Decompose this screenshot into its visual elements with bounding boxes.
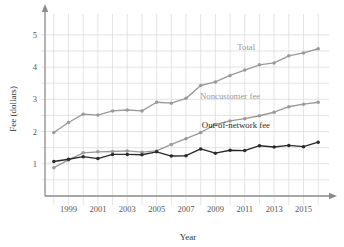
series-point [52,131,56,135]
series-point [81,155,85,159]
series-point [126,153,130,157]
series-point [272,61,276,65]
chart-container: 1234519992001200320052007200920112013201… [0,0,344,247]
series-point [243,149,247,153]
series-point [67,158,71,162]
series-point [258,63,262,67]
y-tick-label: 3 [33,94,37,104]
series-point [272,145,276,149]
series-annotation: Noncustomer fee [200,91,260,101]
series-point [214,80,218,84]
x-axis-title: Year [180,232,197,242]
x-tick-label: 2015 [295,204,312,214]
y-tick-label: 2 [33,127,37,137]
series-point [52,166,56,170]
y-tick-label: 4 [33,62,38,72]
x-tick-label: 2001 [89,204,106,214]
series-point [111,109,115,113]
series-point [199,84,203,88]
x-tick-label: 2013 [266,204,283,214]
series-point [81,151,85,155]
series-point [302,145,306,149]
x-tick-label: 2005 [148,204,165,214]
series-point [155,150,159,154]
series-point [287,105,291,109]
y-axis-title: Fee (dollars) [8,86,18,132]
series-point [140,109,144,113]
series-point [170,143,174,147]
x-tick-label: 2009 [207,204,224,214]
series-point [287,144,291,148]
series-point [96,113,100,117]
series-point [184,97,188,101]
series-point [272,110,276,114]
series-point [170,154,174,158]
series-point [302,102,306,106]
x-tick-label: 2011 [236,204,253,214]
series-point [258,144,262,148]
series-point [170,101,174,105]
y-tick-label: 1 [33,159,37,169]
series-point [111,153,115,157]
x-tick-label: 1999 [60,204,77,214]
series-point [184,154,188,158]
series-point [214,151,218,155]
series-point [287,54,291,58]
series-point [258,114,262,118]
series-point [67,121,71,125]
series-annotation: Out-of-network fee [202,120,270,130]
series-annotation: Total [237,42,256,52]
series-point [52,160,56,164]
series-point [316,100,320,104]
x-tick-label: 2003 [119,204,136,214]
series-point [316,140,320,144]
x-tick-label: 2007 [178,204,195,214]
series-point [155,100,159,104]
x-axis-arrow [329,193,337,199]
series-point [228,74,232,78]
y-axis-arrow [42,4,48,12]
y-tick-label: 5 [33,30,37,40]
series-point [126,149,130,153]
series-point [243,68,247,72]
series-point [140,153,144,157]
series-point [316,47,320,51]
series-point [184,137,188,141]
series-point [81,112,85,116]
line-chart: 1234519992001200320052007200920112013201… [0,0,344,247]
series-point [302,51,306,55]
series-point [199,131,203,135]
series-point [228,148,232,152]
series-point [96,157,100,161]
series-point [96,150,100,154]
series-point [126,108,130,112]
series-point [199,147,203,151]
